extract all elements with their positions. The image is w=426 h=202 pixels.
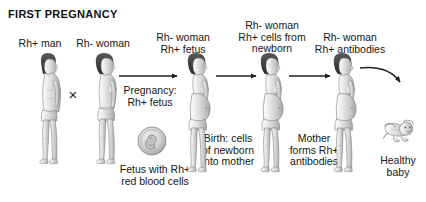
- pregnant-female-figure-icon: [188, 53, 210, 172]
- illustration-canvas: FIRST PREGNANCY Rh+ man Rh- woman Rh- wo…: [0, 0, 426, 202]
- fetus-circle-icon: [138, 127, 166, 155]
- pregnant-female-figure-icon: [261, 53, 283, 172]
- pregnant-female-figure-icon: [334, 53, 356, 172]
- curved-arrow-icon: [360, 68, 400, 82]
- male-figure-icon: [40, 53, 61, 164]
- baby-figure-icon: [383, 120, 413, 142]
- figure-artwork: [0, 0, 426, 202]
- female-figure-icon: [96, 53, 117, 164]
